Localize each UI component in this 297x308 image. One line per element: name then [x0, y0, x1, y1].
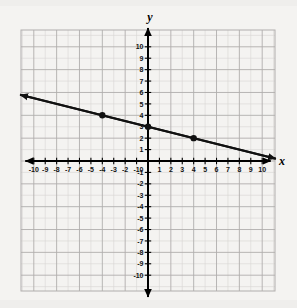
y-tick-label: -2: [137, 180, 143, 187]
x-tick-label: -2: [122, 166, 128, 173]
coordinate-plane-figure: -10-9-8-7-6-5-4-3-2-112345678910-10-9-8-…: [0, 0, 297, 308]
y-tick-label: 5: [140, 101, 144, 108]
x-tick-label: 3: [180, 166, 184, 173]
x-tick-label: 9: [249, 166, 253, 173]
y-tick-label: 8: [140, 66, 144, 73]
y-tick-label: -7: [137, 238, 143, 245]
y-tick-label: 6: [140, 89, 144, 96]
y-tick-label: -3: [137, 192, 143, 199]
y-tick-label: 10: [136, 43, 144, 50]
origin-label: 0: [140, 166, 144, 173]
y-tick-label: -6: [137, 226, 143, 233]
x-tick-label: 1: [157, 166, 161, 173]
x-tick-label: 5: [203, 166, 207, 173]
x-tick-label: 6: [215, 166, 219, 173]
x-tick-label: -7: [65, 166, 71, 173]
graph-canvas: -10-9-8-7-6-5-4-3-2-112345678910-10-9-8-…: [0, 0, 297, 308]
y-tick-label: -8: [137, 249, 143, 256]
y-tick-label: -5: [137, 215, 143, 222]
x-tick-label: -4: [99, 166, 105, 173]
data-point: [190, 135, 196, 141]
y-tick-label: 1: [140, 146, 144, 153]
x-tick-label: -8: [54, 166, 60, 173]
x-tick-label: -9: [42, 166, 48, 173]
x-tick-label: 2: [169, 166, 173, 173]
x-tick-label: 4: [192, 166, 196, 173]
y-tick-label: 7: [140, 78, 144, 85]
data-point: [145, 124, 151, 130]
y-tick-label: 2: [140, 135, 144, 142]
x-axis-label: x: [278, 154, 285, 168]
x-tick-label: -5: [88, 166, 94, 173]
y-tick-label: -10: [133, 272, 143, 279]
y-tick-label: -9: [137, 260, 143, 267]
x-tick-label: 7: [226, 166, 230, 173]
x-tick-label: -6: [76, 166, 82, 173]
x-tick-label: 8: [237, 166, 241, 173]
y-axis-label: y: [145, 10, 153, 24]
y-tick-label: 4: [140, 112, 144, 119]
x-tick-label: 10: [258, 166, 266, 173]
x-tick-label: -10: [29, 166, 39, 173]
y-tick-label: -4: [137, 203, 143, 210]
axes: [26, 28, 271, 297]
x-tick-label: -3: [111, 166, 117, 173]
y-tick-label: 9: [140, 55, 144, 62]
data-point: [99, 112, 105, 118]
